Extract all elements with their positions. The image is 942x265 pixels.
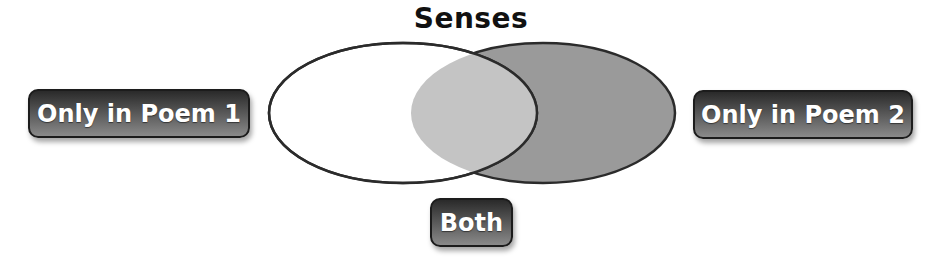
both-text: Both	[440, 209, 503, 237]
only-in-poem-1-label: Only in Poem 1	[28, 89, 250, 138]
only-in-poem-2-label: Only in Poem 2	[693, 90, 913, 139]
both-label: Both	[430, 198, 513, 247]
only-in-poem-1-text: Only in Poem 1	[37, 100, 241, 128]
only-in-poem-2-text: Only in Poem 2	[701, 101, 905, 129]
